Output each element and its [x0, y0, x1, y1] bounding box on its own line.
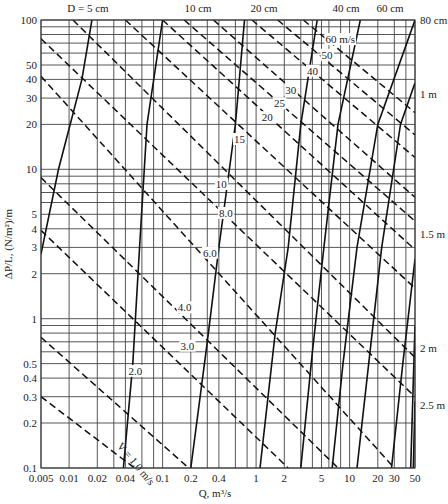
velocity-label: 40 [307, 65, 319, 77]
y-tick-label: 0.2 [23, 417, 37, 429]
velocity-label: 50 [322, 49, 334, 61]
x-tick-label: 0.005 [29, 472, 54, 484]
x-tick-label: 0.1 [156, 472, 170, 484]
y-tick-label: 4 [32, 223, 38, 235]
diameter-label: 2.5 m [420, 399, 446, 411]
velocity-label: 2.0 [128, 365, 142, 377]
x-tick-label: 0.04 [116, 472, 136, 484]
diameter-label: 1 m [420, 88, 437, 100]
y-tick-label: 0.5 [23, 358, 37, 370]
diameter-label: 2 m [420, 342, 437, 354]
velocity-label: 20 [262, 111, 274, 123]
y-axis-title: ΔP/L, (N/m²)/m [2, 208, 15, 279]
pressure-drop-nomograph: 0.10.20.30.40.5123451020304050100 0.0050… [0, 0, 448, 504]
velocity-label: 30 [285, 84, 297, 96]
x-tick-label: 0.4 [212, 472, 226, 484]
velocity-line [163, 20, 415, 250]
velocity-line [41, 230, 288, 468]
velocity-line [41, 337, 189, 468]
y-tick-label: 0.4 [23, 372, 37, 384]
x-tick-label: 50 [410, 472, 422, 484]
y-tick-label: 0.3 [23, 391, 37, 403]
diameter-label: 1.5 m [420, 228, 446, 240]
y-tick-label: 40 [26, 73, 38, 85]
x-tick-label: 5 [319, 472, 325, 484]
velocity-label: 4.0 [178, 301, 192, 313]
velocity-label: 8.0 [219, 207, 233, 219]
x-tick-label: 2 [282, 472, 288, 484]
diameter-label: 80 cm [420, 14, 448, 26]
diameter-label: 10 cm [184, 2, 212, 14]
y-tick-label: 1 [32, 313, 38, 325]
velocity-line [41, 178, 338, 468]
velocity-label: 60 m/s [325, 33, 355, 45]
diameter-line [332, 20, 415, 468]
velocity-label: 10 [216, 178, 228, 190]
diameter-line [123, 20, 162, 468]
y-tick-label: 10 [26, 163, 38, 175]
velocity-label: 6.0 [203, 247, 217, 259]
y-tick-label: 3 [32, 241, 38, 253]
x-tick-label: 0.02 [88, 472, 107, 484]
x-tick-label: 10 [344, 472, 356, 484]
y-tick-label: 5 [32, 208, 38, 220]
x-tick-label: 1 [253, 472, 259, 484]
diameter-label: 60 cm [376, 2, 404, 14]
x-axis-tick-labels: 0.0050.010.020.040.10.20.412510203050 [29, 472, 421, 484]
diameter-label: 20 cm [250, 2, 278, 14]
y-axis-tick-labels: 0.10.20.30.40.5123451020304050100 [21, 14, 38, 474]
y-tick-label: 2 [32, 268, 38, 280]
x-tick-label: 20 [372, 472, 384, 484]
y-tick-label: 20 [26, 118, 38, 130]
velocity-line [214, 20, 416, 197]
x-tick-label: 30 [389, 472, 401, 484]
y-tick-label: 30 [26, 92, 38, 104]
velocity-line [41, 76, 394, 468]
x-tick-label: 0.01 [59, 472, 78, 484]
velocity-label: 15 [234, 133, 246, 145]
y-tick-label: 50 [26, 59, 38, 71]
velocity-label: 25 [274, 97, 286, 109]
y-tick-label: 100 [21, 14, 38, 26]
diameter-label: D = 5 cm [67, 2, 109, 14]
velocity-label: 3.0 [180, 340, 194, 352]
velocity-line [125, 20, 415, 288]
diameter-label: 40 cm [332, 2, 360, 14]
x-axis-title: Q, m³/s [199, 487, 232, 499]
diameter-labels: D = 5 cm10 cm20 cm40 cm60 cm80 cm1 m1.5 … [67, 2, 447, 411]
x-tick-label: 0.2 [184, 472, 198, 484]
